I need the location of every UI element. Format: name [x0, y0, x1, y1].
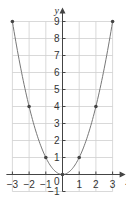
data-point	[61, 173, 65, 177]
data-point	[27, 105, 31, 109]
y-tick-label: 5	[54, 84, 60, 95]
y-axis-label: y	[54, 5, 60, 16]
y-tick-label: 1	[54, 152, 60, 163]
axes	[6, 8, 125, 192]
y-tick-label: 7	[54, 50, 60, 61]
tick-labels: −3−2−11230−1123456789xy	[7, 5, 126, 198]
y-tick-label: 3	[54, 118, 60, 129]
y-tick-label: 6	[54, 67, 60, 78]
y-tick-label: 4	[54, 101, 60, 112]
y-tick-label: 2	[54, 135, 60, 146]
data-point	[11, 20, 15, 24]
parabola-chart: −3−2−11230−1123456789xy	[0, 0, 126, 200]
y-axis-arrow-icon	[60, 8, 66, 14]
data-point	[111, 20, 115, 24]
y-tick-label: −1	[48, 186, 60, 197]
y-tick-label: 9	[54, 16, 60, 27]
origin-label: 0	[54, 176, 60, 187]
y-tick-label: 8	[54, 33, 60, 44]
data-point	[94, 105, 98, 109]
data-point	[77, 156, 81, 160]
data-point	[44, 156, 48, 160]
x-tick-label: 1	[76, 179, 82, 190]
x-tick-label: 3	[110, 179, 116, 190]
x-tick-label: 2	[93, 179, 99, 190]
x-tick-label: −3	[7, 179, 19, 190]
x-axis-label: x	[125, 176, 126, 187]
x-tick-label: −2	[23, 179, 35, 190]
